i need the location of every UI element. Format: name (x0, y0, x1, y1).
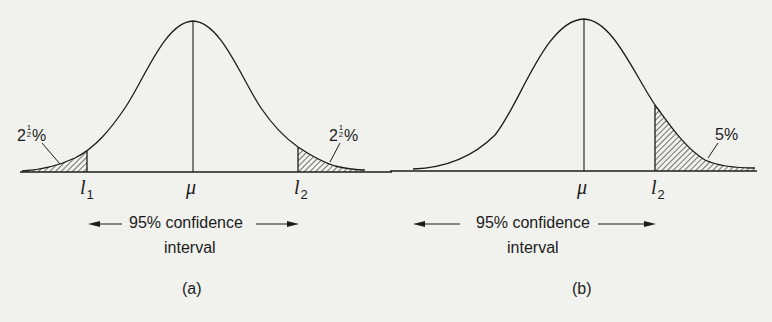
right-tail-unit: % (344, 127, 358, 144)
panel-a-right-tail-leader (330, 143, 340, 162)
panel-b-arrow-left-head (413, 221, 425, 227)
left-tail-whole: 2 (17, 127, 26, 144)
b-l2-subscript: 2 (658, 187, 665, 202)
l2-subscript: 2 (301, 187, 308, 202)
panel-a-interval-label-line1: 95% confidence (129, 214, 243, 232)
panel-b-arrow-right-head (644, 221, 656, 227)
panel-a-caption: (a) (182, 280, 202, 298)
panel-a-left-tail-shading (22, 151, 87, 172)
panel-a-l1-label: l1 (80, 176, 93, 199)
panel-b-caption: (b) (572, 280, 592, 298)
figure-canvas (0, 0, 772, 322)
panel-a-l2-label: l2 (294, 176, 307, 199)
left-tail-unit: % (32, 127, 46, 144)
panel-a-arrow-left-head (88, 221, 100, 227)
panel-b-interval-label-line1: 95% confidence (476, 214, 590, 232)
panel-b-plot (390, 19, 757, 227)
l1-subscript: 1 (87, 187, 94, 202)
l1-symbol: l (80, 176, 86, 198)
panel-b-interval-label-line2: interval (507, 239, 559, 257)
l2-symbol: l (294, 176, 300, 198)
panel-b-tail-label: 5% (715, 126, 738, 144)
panel-b-l2-label: l2 (651, 176, 664, 199)
panel-a-interval-label-line2: interval (164, 239, 216, 257)
panel-a-right-tail-label: 212% (329, 124, 358, 145)
panel-b-mu-label: μ (577, 176, 587, 199)
panel-a-arrow-right-head (287, 221, 299, 227)
panel-a-mu-label: μ (186, 176, 196, 199)
panel-a-left-tail-label: 212% (17, 124, 46, 145)
right-tail-whole: 2 (329, 127, 338, 144)
panel-a-left-tail-leader (42, 143, 60, 164)
panel-b-right-tail-shading (655, 105, 755, 171)
b-l2-symbol: l (651, 176, 657, 198)
panel-b-tail-leader (708, 143, 718, 158)
